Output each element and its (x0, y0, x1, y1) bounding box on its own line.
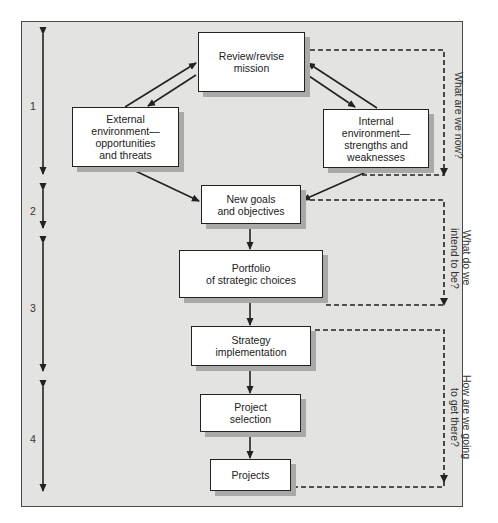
box-portfolio: Portfolio of strategic choices (179, 250, 323, 298)
box-strategy-implementation: Strategy implementation (191, 326, 311, 366)
box-review-mission: Review/revise mission (198, 32, 305, 92)
stage-label-3: 3 (30, 302, 36, 314)
stage-label-2: 2 (30, 205, 36, 217)
stage-label-4: 4 (30, 433, 36, 445)
stage-label-1: 1 (30, 100, 36, 112)
bracket-how-get-there (296, 330, 444, 487)
box-new-goals: New goals and objectives (201, 185, 301, 224)
question-what-are-we-now: What are we now? (453, 67, 465, 163)
internal-to-mission-arrow (308, 63, 377, 108)
box-project-selection: Project selection (200, 394, 301, 432)
external-to-goals-arrow (127, 167, 199, 201)
question-how-are-we-going-to-get-there: How are we going to get there? (449, 365, 473, 470)
question-what-do-we-intend-to-be: What do we intend to be? (449, 218, 473, 298)
box-external-environment: External environment— opportunities and … (72, 107, 179, 167)
bracket-1-arrowhead (440, 168, 448, 176)
box-internal-environment: Internal environment— strengths and weak… (323, 109, 429, 168)
internal-to-goals-arrow (303, 169, 373, 200)
mission-to-internal-arrow (306, 74, 355, 107)
bracket-3-arrowhead (440, 475, 448, 483)
box-projects: Projects (210, 459, 291, 491)
bracket-what-intend (310, 200, 444, 305)
mission-to-external-arrow (148, 75, 196, 106)
external-to-mission-arrow (125, 63, 196, 107)
